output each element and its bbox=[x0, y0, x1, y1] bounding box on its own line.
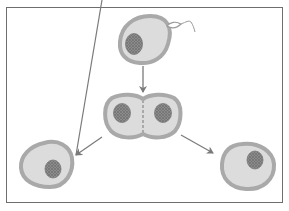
diagram-canvas bbox=[0, 0, 289, 211]
right-daughter-membrane bbox=[222, 144, 274, 189]
right-nucleus bbox=[155, 104, 172, 123]
two-cell-stage bbox=[105, 95, 180, 138]
fertilized-egg-cell bbox=[120, 16, 170, 63]
right-daughter-nucleus bbox=[247, 151, 263, 169]
daughter-cell-left bbox=[21, 142, 72, 187]
daughter-cell-right bbox=[222, 144, 274, 189]
egg-nucleus bbox=[126, 34, 143, 55]
left-daughter-nucleus bbox=[45, 160, 61, 178]
left-nucleus bbox=[114, 104, 131, 123]
cell-division-diagram bbox=[0, 0, 289, 211]
